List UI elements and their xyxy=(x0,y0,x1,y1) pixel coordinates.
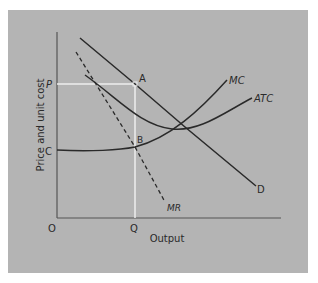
curve-label-mc: MC xyxy=(229,75,245,86)
tick-label-origin: O xyxy=(48,223,56,234)
point-label-b: B xyxy=(137,135,143,145)
y-axis-label: Price and unit cost xyxy=(35,78,46,171)
tick-label-p: P xyxy=(46,79,53,90)
curve-label-mr: MR xyxy=(167,203,181,213)
monopoly-chart: Price and unit cost Output P C O Q A B D… xyxy=(0,0,318,283)
marginal-revenue-curve xyxy=(76,52,165,202)
demand-curve xyxy=(80,38,256,186)
point-label-a: A xyxy=(139,73,146,84)
curve-label-atc: ATC xyxy=(253,93,273,104)
x-axis-label: Output xyxy=(150,233,185,244)
average-total-cost-curve xyxy=(85,75,252,129)
curve-label-d: D xyxy=(257,184,265,195)
tick-label-c: C xyxy=(45,146,52,157)
tick-label-q: Q xyxy=(130,223,138,234)
